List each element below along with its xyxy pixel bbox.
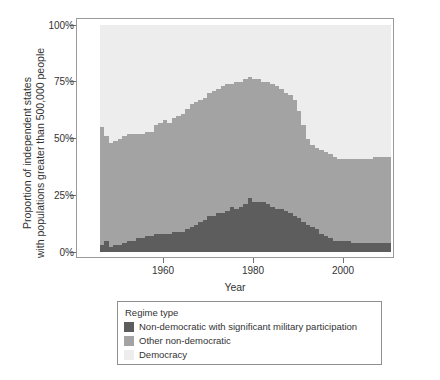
x-tick-mark-2000 (343, 258, 344, 263)
x-tick-label-2000: 2000 (313, 265, 373, 276)
y-axis-title-line1: Proportion of independent states (21, 77, 34, 229)
plot-area (77, 19, 393, 257)
legend-label-democracy: Democracy (139, 349, 187, 360)
stacked-area-chart (77, 19, 393, 257)
y-tick-label-100: 100% (34, 20, 74, 31)
x-tick-label-1960: 1960 (133, 265, 193, 276)
x-tick-mark-1980 (253, 258, 254, 263)
legend-item-other-nondemocratic[interactable]: Other non-democratic (124, 334, 381, 347)
legend: Regime type Non-democratic with signific… (117, 301, 382, 365)
chart-figure: Proportion of independent states with po… (0, 0, 440, 380)
legend-item-democracy[interactable]: Democracy (124, 348, 381, 361)
plot-panel (76, 18, 394, 258)
legend-label-other-nondemocratic: Other non-democratic (139, 335, 231, 346)
x-tick-label-1980: 1980 (223, 265, 283, 276)
legend-swatch-military (124, 322, 134, 332)
x-tick-mark-1960 (163, 258, 164, 263)
legend-item-military[interactable]: Non-democratic with significant military… (124, 320, 381, 333)
x-axis-title: Year (76, 281, 394, 293)
y-tick-label-50: 50% (34, 133, 74, 144)
y-tick-label-75: 75% (34, 76, 74, 87)
legend-label-military: Non-democratic with significant military… (139, 321, 357, 332)
legend-title: Regime type (125, 307, 381, 318)
y-tick-label-25: 25% (34, 190, 74, 201)
legend-swatch-democracy (124, 350, 134, 360)
legend-swatch-other-nondemocratic (124, 336, 134, 346)
y-tick-label-0: 0% (34, 247, 74, 258)
